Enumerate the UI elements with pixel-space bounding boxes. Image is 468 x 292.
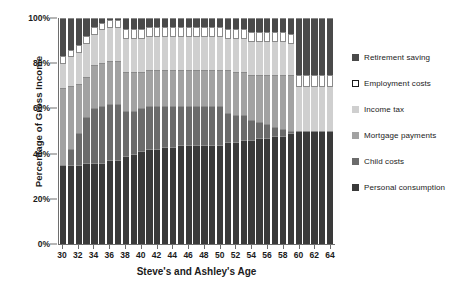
bar-segment-mortgage-payments [280, 75, 286, 129]
legend-item-income-tax[interactable]: Income tax [352, 96, 468, 122]
bar-segment-income-tax [233, 38, 239, 72]
bar-segment-employment-costs [123, 29, 129, 38]
bar-age-58[interactable] [280, 18, 286, 244]
y-axis-tick-label: 0% [8, 239, 50, 249]
bar-age-41[interactable] [146, 18, 152, 244]
y-axis-tick-mark [50, 108, 57, 109]
x-axis-tick-mark [125, 244, 126, 249]
bar-segment-retirement-saving [201, 18, 207, 27]
bar-age-63[interactable] [319, 18, 325, 244]
bar-segment-income-tax [162, 36, 168, 70]
bar-age-31[interactable] [68, 18, 74, 244]
bar-age-54[interactable] [248, 18, 254, 244]
bar-age-59[interactable] [288, 18, 294, 244]
legend-item-personal-consumption[interactable]: Personal consumption [352, 174, 468, 200]
bar-age-42[interactable] [154, 18, 160, 244]
bar-segment-mortgage-payments [123, 72, 129, 110]
legend-label: Personal consumption [364, 183, 445, 192]
bar-segment-mortgage-payments [91, 65, 97, 108]
legend-item-retirement-saving[interactable]: Retirement saving [352, 44, 468, 70]
bar-segment-mortgage-payments [241, 72, 247, 115]
bar-segment-employment-costs [225, 29, 231, 38]
bar-segment-employment-costs [60, 56, 66, 63]
bar-segment-child-costs [186, 106, 192, 144]
bar-segment-income-tax [170, 36, 176, 70]
y-axis-tick-mark [50, 198, 57, 199]
bar-age-49[interactable] [209, 18, 215, 244]
bar-age-52[interactable] [233, 18, 239, 244]
bar-segment-personal-consumption [272, 136, 278, 244]
bar-age-56[interactable] [264, 18, 270, 244]
bar-age-57[interactable] [272, 18, 278, 244]
bar-age-43[interactable] [162, 18, 168, 244]
bar-segment-employment-costs [288, 34, 294, 43]
bar-segment-child-costs [193, 106, 199, 144]
bar-age-38[interactable] [123, 18, 129, 244]
bar-segment-employment-costs [248, 32, 254, 41]
x-axis-tick-label: 60 [294, 250, 303, 260]
bar-age-35[interactable] [99, 18, 105, 244]
bar-age-48[interactable] [201, 18, 207, 244]
x-axis-tick-label: 36 [105, 250, 114, 260]
bar-segment-mortgage-payments [178, 70, 184, 106]
bar-age-51[interactable] [225, 18, 231, 244]
bar-segment-retirement-saving [123, 18, 129, 29]
bar-segment-income-tax [248, 41, 254, 75]
bar-age-39[interactable] [131, 18, 137, 244]
bar-age-45[interactable] [178, 18, 184, 244]
stacked-bar-chart: 0%20%40%60%80%100% Percentage of Gross I… [0, 0, 468, 292]
bar-age-44[interactable] [170, 18, 176, 244]
bar-segment-personal-consumption [319, 131, 325, 244]
bar-segment-income-tax [123, 38, 129, 72]
bar-age-33[interactable] [83, 18, 89, 244]
bar-segment-mortgage-payments [233, 72, 239, 115]
bar-segment-mortgage-payments [154, 70, 160, 106]
bar-segment-mortgage-payments [131, 72, 137, 110]
bar-segment-child-costs [76, 133, 82, 165]
x-axis-title: Steve's and Ashley's Age [58, 266, 335, 277]
bar-segment-child-costs [178, 106, 184, 144]
x-axis-tick-label: 64 [325, 250, 334, 260]
bar-segment-child-costs [162, 106, 168, 147]
bar-segment-employment-costs [193, 27, 199, 36]
bar-age-53[interactable] [241, 18, 247, 244]
bar-age-37[interactable] [115, 18, 121, 244]
bar-age-40[interactable] [138, 18, 144, 244]
bar-segment-income-tax [131, 38, 137, 72]
bar-segment-personal-consumption [248, 140, 254, 244]
bar-segment-child-costs [248, 120, 254, 140]
x-axis-tick-label: 32 [73, 250, 82, 260]
bar-segment-income-tax [201, 36, 207, 70]
bar-segment-personal-consumption [68, 165, 74, 244]
x-axis-tick-mark [235, 244, 236, 249]
y-axis-tick-label: 100% [8, 13, 50, 23]
bar-age-60[interactable] [296, 18, 302, 244]
bar-age-55[interactable] [256, 18, 262, 244]
bar-segment-child-costs [170, 106, 176, 147]
bar-age-32[interactable] [76, 18, 82, 244]
bar-segment-personal-consumption [91, 163, 97, 244]
bar-segment-mortgage-payments [107, 61, 113, 104]
bar-age-47[interactable] [193, 18, 199, 244]
legend-item-employment-costs[interactable]: Employment costs [352, 70, 468, 96]
bar-age-30[interactable] [60, 18, 66, 244]
bar-segment-retirement-saving [60, 18, 66, 56]
bar-segment-employment-costs [91, 27, 97, 34]
bar-age-61[interactable] [303, 18, 309, 244]
bar-age-50[interactable] [217, 18, 223, 244]
bar-segment-employment-costs [68, 50, 74, 57]
bar-age-36[interactable] [107, 18, 113, 244]
bar-age-62[interactable] [311, 18, 317, 244]
bar-segment-mortgage-payments [209, 70, 215, 106]
bar-segment-employment-costs [303, 75, 309, 86]
bar-age-64[interactable] [327, 18, 333, 244]
legend-item-child-costs[interactable]: Child costs [352, 148, 468, 174]
bar-segment-income-tax [99, 29, 105, 63]
bar-segment-income-tax [288, 43, 294, 75]
bar-segment-personal-consumption [280, 136, 286, 244]
bar-segment-income-tax [154, 36, 160, 70]
bar-age-34[interactable] [91, 18, 97, 244]
legend-item-mortgage-payments[interactable]: Mortgage payments [352, 122, 468, 148]
bar-age-46[interactable] [186, 18, 192, 244]
x-axis-tick-mark [109, 244, 110, 249]
